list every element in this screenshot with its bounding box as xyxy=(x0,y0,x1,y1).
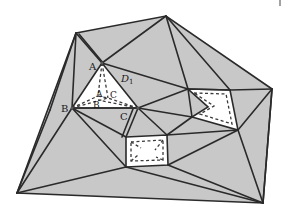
vertex-c xyxy=(137,107,140,110)
label-d-subscript: 1 xyxy=(129,78,133,86)
vertex-b xyxy=(71,107,74,110)
label-c-outer: C xyxy=(120,111,128,122)
vertex-a xyxy=(101,62,104,65)
triangulation-diagram: A B C A B C D1 xyxy=(0,0,288,216)
bottom-box-hole xyxy=(126,135,168,167)
label-a-outer: A xyxy=(88,61,97,72)
label-d-main: D xyxy=(120,73,129,84)
label-c-inner: C xyxy=(110,90,117,100)
label-b-inner: B xyxy=(93,100,100,110)
label-b-outer: B xyxy=(61,103,68,114)
label-a-inner: A xyxy=(95,89,103,99)
